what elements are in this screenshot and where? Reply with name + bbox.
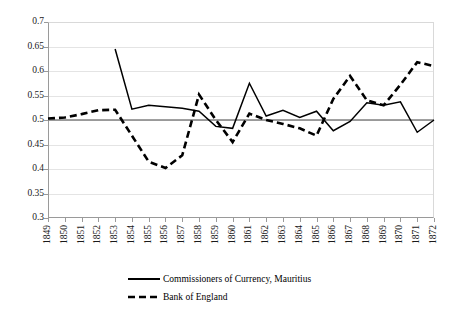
legend-swatch-solid (128, 274, 160, 284)
chart-legend: Commissioners of Currency, Mauritius Ban… (128, 270, 311, 306)
legend-item-bank-of-england: Bank of England (128, 288, 311, 306)
legend-item-commissioners: Commissioners of Currency, Mauritius (128, 270, 311, 288)
legend-label-bank-of-england: Bank of England (163, 292, 227, 302)
legend-label-commissioners: Commissioners of Currency, Mauritius (163, 274, 311, 284)
legend-swatch-dashed (128, 292, 160, 302)
line-chart: 0.70.650.60.550.50.450.40.350.3 18491850… (0, 0, 457, 321)
series-line-bank-of-england (48, 62, 434, 168)
